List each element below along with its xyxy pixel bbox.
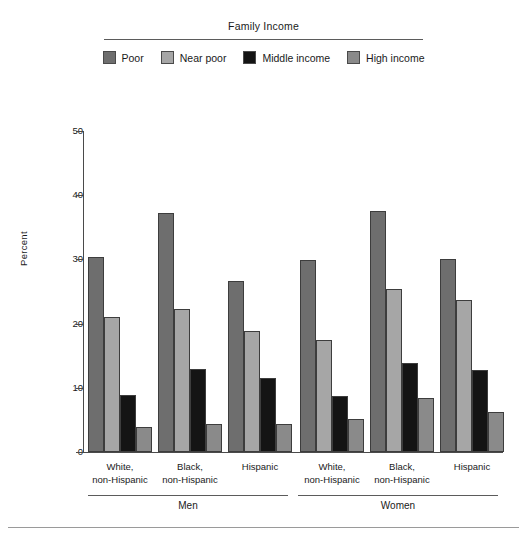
bar [456, 300, 472, 452]
bar-group [88, 131, 152, 452]
bar-group [228, 131, 292, 452]
group-rule-women [298, 495, 498, 496]
bar [136, 427, 152, 452]
bar [174, 309, 190, 452]
bar-group [158, 131, 222, 452]
bar [418, 398, 434, 452]
bar [300, 260, 316, 452]
bar [488, 412, 504, 452]
bar [88, 257, 104, 452]
footer-divider [8, 527, 519, 528]
x-axis-line [83, 452, 503, 453]
bar-chart: Percent 01020304050 White,non-HispanicBl… [0, 0, 527, 542]
bar [332, 396, 348, 452]
bar-group [370, 131, 434, 452]
bar [228, 281, 244, 452]
bar [120, 395, 136, 452]
category-label-line2: non-Hispanic [342, 474, 462, 487]
bar [370, 211, 386, 452]
bar [260, 378, 276, 452]
bar [440, 259, 456, 452]
bar [190, 369, 206, 452]
bar [386, 289, 402, 452]
group-label-men: Men [88, 500, 288, 511]
bar [472, 370, 488, 452]
bars-layer [84, 131, 503, 452]
y-axis-tick-mark [76, 452, 83, 453]
bar-group [300, 131, 364, 452]
y-axis-tick-mark [76, 131, 83, 132]
bar [348, 419, 364, 452]
bar [276, 424, 292, 452]
y-axis-tick-mark [76, 324, 83, 325]
bar [104, 317, 120, 452]
y-axis-title: Percent [18, 231, 29, 266]
group-rule-men [88, 495, 288, 496]
category-label-line2: non-Hispanic [130, 474, 250, 487]
bar [244, 331, 260, 452]
bar [402, 363, 418, 452]
group-label-women: Women [298, 500, 498, 511]
category-label-line1: Hispanic [412, 461, 527, 474]
bar [158, 213, 174, 452]
y-axis-tick-mark [76, 388, 83, 389]
bar [316, 340, 332, 452]
bar-group [440, 131, 504, 452]
y-axis-tick-mark [76, 259, 83, 260]
y-axis-tick-mark [76, 195, 83, 196]
bar [206, 424, 222, 452]
x-axis-category-label: Hispanic [412, 461, 527, 474]
